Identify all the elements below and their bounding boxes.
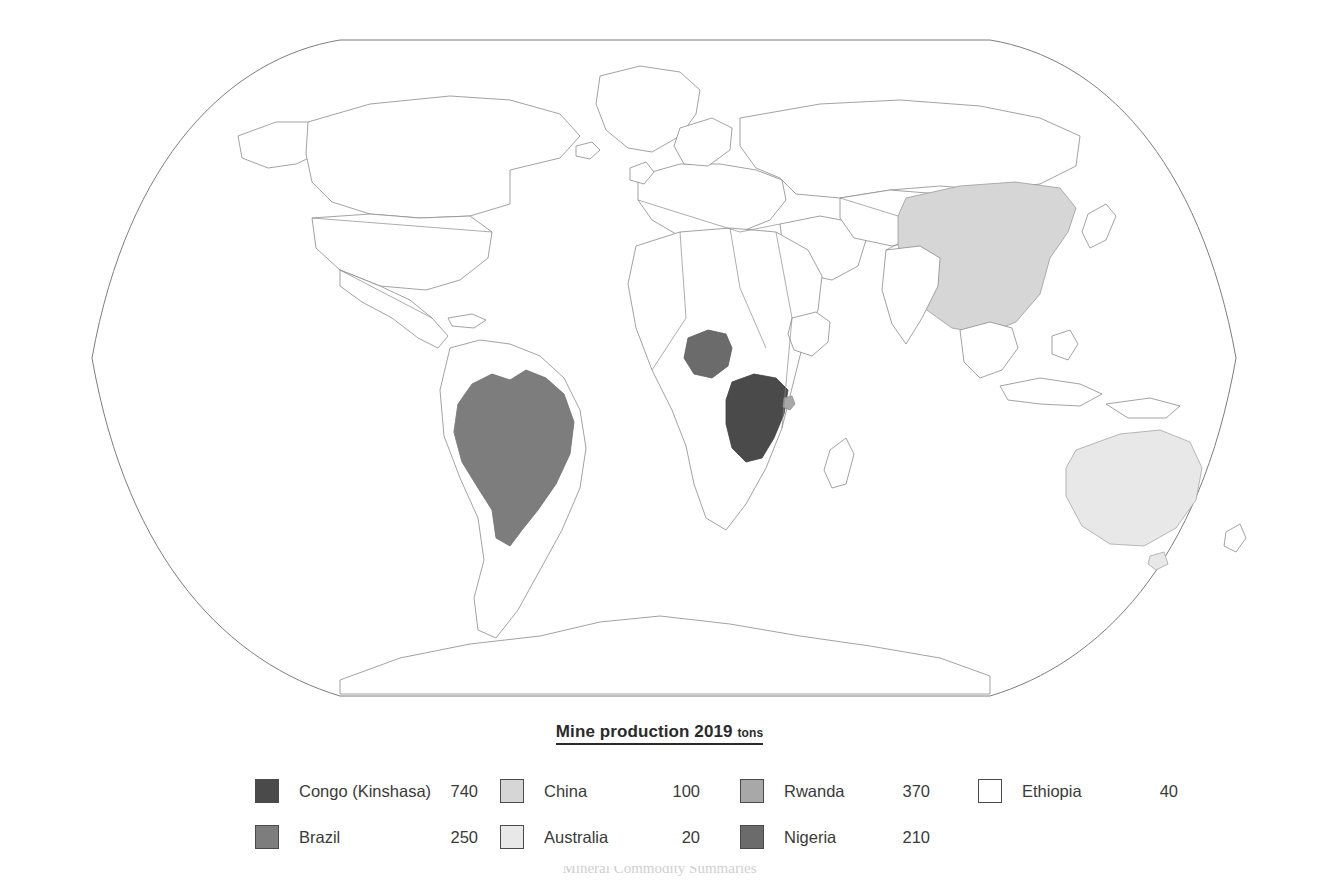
legend-value-brazil: 250	[450, 828, 500, 847]
legend-title: Mine production 2019 tons	[556, 722, 763, 745]
legend-item-china[interactable]: China 100	[500, 779, 740, 803]
legend-value-china: 100	[672, 782, 740, 801]
legend-value-congo-kinshasa: 740	[450, 782, 500, 801]
legend-swatch-nigeria	[740, 825, 764, 849]
legend-value-nigeria: 210	[902, 828, 978, 847]
world-map-figure: Mine production 2019 tons Congo (Kinshas…	[0, 0, 1319, 882]
legend-label-nigeria: Nigeria	[784, 828, 836, 847]
legend-label-china: China	[544, 782, 587, 801]
legend-item-rwanda[interactable]: Rwanda 370	[740, 779, 978, 803]
legend-swatch-rwanda	[740, 779, 764, 803]
legend-item-congo-kinshasa[interactable]: Congo (Kinshasa) 740	[255, 779, 500, 803]
legend-item-nigeria[interactable]: Nigeria 210	[740, 825, 978, 849]
legend-value-ethiopia: 40	[1160, 782, 1228, 801]
legend-swatch-brazil	[255, 825, 279, 849]
legend-label-congo-kinshasa: Congo (Kinshasa)	[299, 782, 431, 801]
legend-grid: Congo (Kinshasa) 740 China 100 Rwanda 37…	[255, 768, 1265, 860]
legend-item-ethiopia[interactable]: Ethiopia 40	[978, 779, 1228, 803]
legend-label-ethiopia: Ethiopia	[1022, 782, 1082, 801]
clipped-caption-strip: Mineral Commodity Summaries	[0, 866, 1319, 882]
legend-item-brazil[interactable]: Brazil 250	[255, 825, 500, 849]
legend-value-australia: 20	[682, 828, 740, 847]
legend-swatch-congo-kinshasa	[255, 779, 279, 803]
legend-label-australia: Australia	[544, 828, 608, 847]
legend-swatch-china	[500, 779, 524, 803]
legend-row-1: Congo (Kinshasa) 740 China 100 Rwanda 37…	[255, 768, 1265, 814]
map-canvas	[40, 18, 1280, 718]
legend-row-2: Brazil 250 Australia 20 Nigeria 210	[255, 814, 1265, 860]
legend-value-rwanda: 370	[902, 782, 978, 801]
legend-item-australia[interactable]: Australia 20	[500, 825, 740, 849]
legend-swatch-australia	[500, 825, 524, 849]
legend-title-main: Mine production 2019	[556, 722, 733, 741]
map-legend: Mine production 2019 tons Congo (Kinshas…	[0, 722, 1319, 752]
legend-swatch-ethiopia	[978, 779, 1002, 803]
caption-text: Mineral Commodity Summaries	[0, 866, 1319, 877]
legend-item-placeholder	[978, 825, 1228, 849]
legend-title-row: Mine production 2019 tons	[0, 722, 1319, 752]
legend-label-brazil: Brazil	[299, 828, 340, 847]
new-zealand	[1224, 524, 1246, 552]
world-map-svg	[40, 18, 1280, 718]
legend-title-units: tons	[737, 726, 763, 740]
legend-label-rwanda: Rwanda	[784, 782, 845, 801]
